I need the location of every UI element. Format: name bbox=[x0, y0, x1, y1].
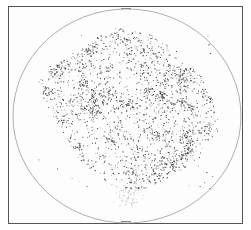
density-map bbox=[0, 0, 251, 230]
point-cloud bbox=[39, 28, 219, 207]
